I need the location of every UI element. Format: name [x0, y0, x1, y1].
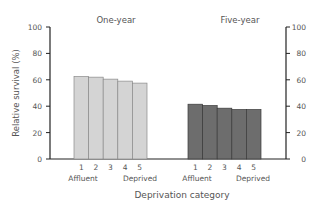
x-tick-label: 3 [222, 163, 227, 172]
y-tick-label-right: 40 [296, 102, 306, 111]
y-tick-label-right: 80 [296, 49, 306, 58]
y-tick-label-right: 0 [301, 155, 306, 164]
y-tick-label-left: 80 [32, 49, 42, 58]
x-tick-label: 5 [251, 163, 256, 172]
bar-five-year-cat-5 [246, 110, 261, 160]
y-tick-label-left: 20 [32, 129, 42, 138]
y-tick-label-right: 100 [292, 23, 307, 32]
x-tick-label: 4 [237, 163, 242, 172]
y-tick-label-left: 0 [37, 155, 42, 164]
x-tick-label: 1 [193, 163, 198, 172]
x-tick-label: 2 [208, 163, 213, 172]
x-tick-label: 4 [123, 163, 128, 172]
bar-five-year-cat-2 [203, 106, 218, 159]
y-tick-label-left: 40 [32, 102, 42, 111]
bar-one-year-cat-5 [132, 83, 147, 159]
affluent-label-five-year: Affluent [182, 174, 212, 183]
survival-bar-chart: 002020404060608080100100 1234512345 Rela… [0, 0, 323, 213]
x-tick-label: 5 [137, 163, 142, 172]
x-tick-label: 2 [94, 163, 99, 172]
bar-one-year-cat-2 [89, 77, 104, 159]
affluent-label-one-year: Affluent [68, 174, 98, 183]
y-tick-label-right: 60 [296, 76, 306, 85]
group-label-five-year: Five-year [221, 15, 260, 25]
x-tick-label: 1 [79, 163, 84, 172]
y-axis-label: Relative survival (%) [11, 49, 21, 137]
bar-five-year-cat-4 [232, 110, 247, 160]
y-tick-label-right: 20 [296, 129, 306, 138]
bar-one-year-cat-4 [118, 81, 133, 159]
deprived-label-one-year: Deprived [123, 174, 157, 183]
y-tick-label-left: 100 [28, 23, 43, 32]
x-axis-label: Deprivation category [134, 190, 230, 200]
bar-five-year-cat-3 [217, 108, 232, 159]
bar-one-year-cat-3 [103, 79, 118, 159]
deprived-label-five-year: Deprived [236, 174, 270, 183]
bar-one-year-cat-1 [74, 77, 89, 160]
group-label-one-year: One-year [96, 15, 136, 25]
y-tick-label-left: 60 [32, 76, 42, 85]
bar-five-year-cat-1 [188, 104, 203, 159]
x-tick-label: 3 [108, 163, 113, 172]
